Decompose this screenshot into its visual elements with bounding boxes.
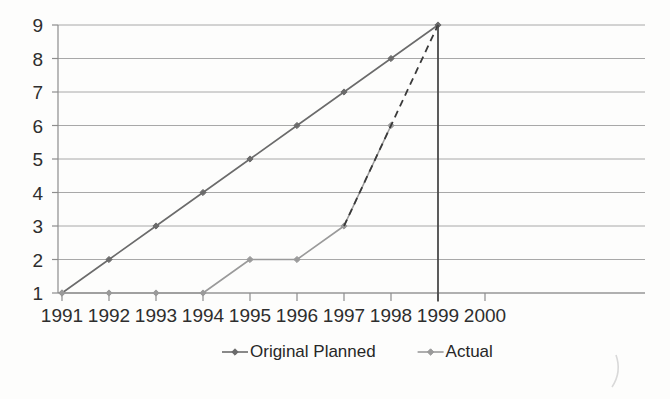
y-axis-tick-label: 3 [32,216,43,237]
y-axis-tick-label: 2 [32,250,43,271]
y-axis-tick-label: 5 [32,149,43,170]
legend-label: Actual [446,342,493,361]
x-axis-tick-label: 1996 [276,305,318,326]
y-axis-tick-label: 7 [32,82,43,103]
line-chart: 987654321 199119921993199419951996199719… [0,0,670,399]
x-axis-tick-label: 1997 [323,305,365,326]
y-axis-tick-label: 8 [32,49,43,70]
x-axis-tick-label: 2000 [464,305,506,326]
legend-label: Original Planned [250,342,376,361]
y-axis-tick-label: 6 [32,116,43,137]
x-axis-tick-label: 1993 [135,305,177,326]
chart-legend: Original PlannedActual [222,342,493,361]
y-axis-tick-label: 4 [32,183,43,204]
x-axis-tick-label: 1994 [182,305,225,326]
x-axis-tick-label: 1995 [229,305,271,326]
y-axis-tick-label: 9 [32,15,43,36]
y-axis-labels-group: 987654321 [32,15,43,304]
x-axis-tick-label: 1999 [417,305,459,326]
x-axis-tick-label: 1998 [370,305,412,326]
y-axis-tick-label: 1 [32,283,43,304]
x-axis-tick-label: 1991 [41,305,83,326]
chart-background [0,0,670,399]
chart-container: 987654321 199119921993199419951996199719… [0,0,670,399]
x-axis-tick-label: 1992 [88,305,130,326]
